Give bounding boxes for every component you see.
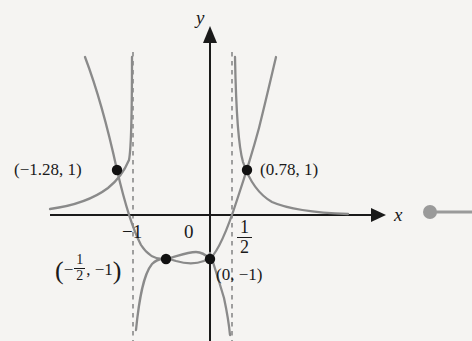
- y-value-part: , −1: [86, 261, 113, 278]
- point-label-left-upper: (−1.28, 1): [14, 161, 82, 178]
- point-label-origin-lower: (0, −1): [216, 266, 262, 283]
- minus-sign: −: [64, 261, 74, 278]
- leader-dot-icon: [423, 205, 437, 219]
- one-half-numerator: 1: [237, 218, 252, 237]
- half-numerator: 1: [74, 253, 85, 268]
- right-paren: ): [113, 262, 122, 281]
- point-label-left-lower: ( − 1 2 , −1 ): [55, 254, 122, 284]
- left-paren: (: [55, 262, 64, 281]
- x-tick-label-neg-one: −1: [122, 222, 142, 241]
- point-origin-lower-marker: [205, 254, 215, 264]
- point-left-upper-marker: [112, 165, 122, 175]
- point-left-lower-marker: [161, 254, 171, 264]
- one-half-denominator: 2: [237, 237, 252, 257]
- x-axis-label: x: [394, 205, 402, 224]
- point-label-right-upper: (0.78, 1): [260, 161, 318, 178]
- point-right-upper-marker: [242, 165, 252, 175]
- y-axis-label: y: [196, 8, 204, 27]
- x-tick-label-one-half: 1 2: [236, 219, 253, 257]
- half-denominator: 2: [74, 268, 85, 284]
- x-tick-label-origin: 0: [184, 222, 194, 241]
